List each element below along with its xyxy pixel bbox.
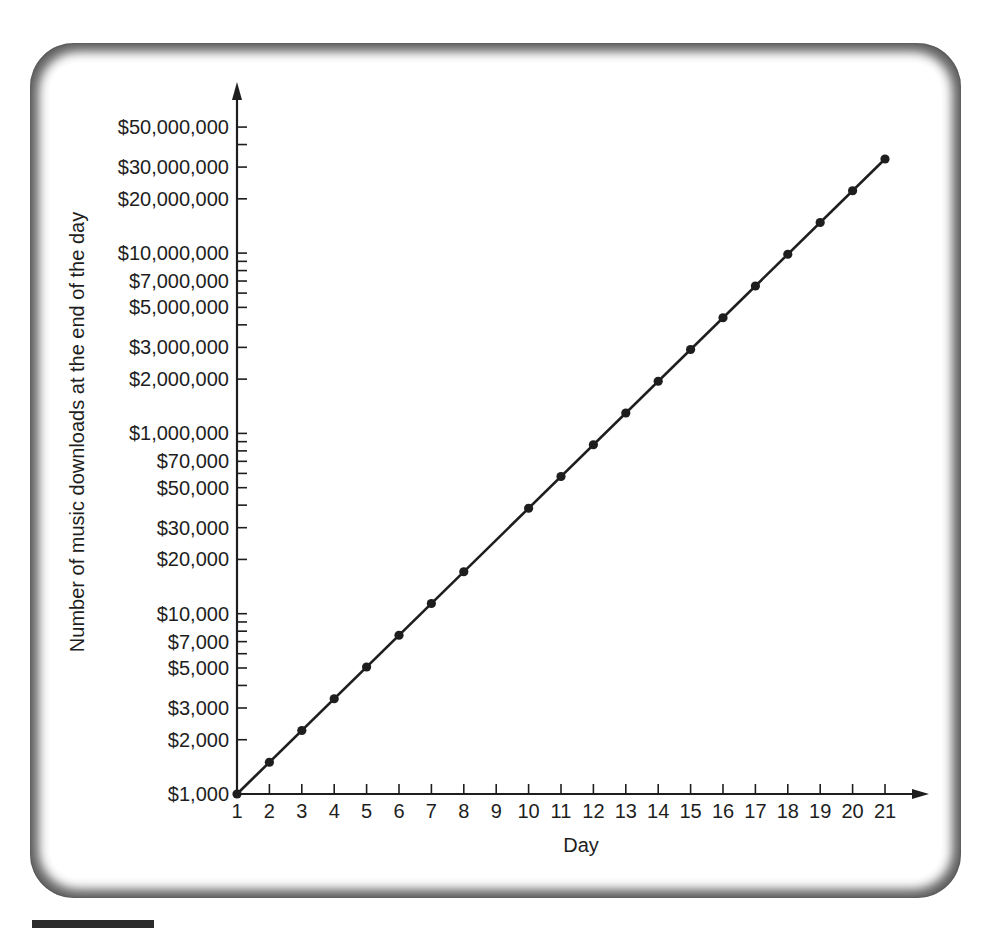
y-tick-label: $70,000: [157, 450, 229, 472]
data-point-marker: [394, 631, 403, 640]
x-tick-label: 12: [582, 800, 604, 822]
x-tick-label: 7: [426, 800, 437, 822]
y-axis-title: Number of music downloads at the end of …: [66, 212, 88, 652]
data-point-marker: [880, 154, 889, 163]
y-axis: $1,000$2,000$3,000$5,000$7,000$10,000$20…: [118, 82, 247, 805]
y-tick-label: $20,000,000: [118, 188, 229, 210]
data-point-marker: [556, 472, 565, 481]
y-tick-label: $50,000,000: [118, 116, 229, 138]
x-tick-label: 16: [712, 800, 734, 822]
x-axis-title: Day: [563, 834, 599, 856]
y-tick-label: $20,000: [157, 548, 229, 570]
x-tick-label: 3: [296, 800, 307, 822]
x-tick-label: 17: [744, 800, 766, 822]
x-tick-label: 9: [491, 800, 502, 822]
x-tick-label: 18: [777, 800, 799, 822]
y-tick-label: $50,000: [157, 477, 229, 499]
x-tick-label: 20: [841, 800, 863, 822]
x-tick-label: 13: [615, 800, 637, 822]
y-tick-label: $10,000: [157, 603, 229, 625]
x-tick-label: 5: [361, 800, 372, 822]
data-point-marker: [232, 789, 241, 798]
data-point-marker: [427, 599, 436, 608]
data-point-marker: [297, 726, 306, 735]
data-point-marker: [524, 504, 533, 513]
data-point-marker: [621, 408, 630, 417]
data-point-marker: [265, 758, 274, 767]
y-tick-label: $3,000: [168, 697, 229, 719]
x-tick-label: 19: [809, 800, 831, 822]
y-tick-label: $1,000: [168, 783, 229, 805]
x-axis: 123456789101112131415161718192021: [231, 784, 929, 822]
y-tick-label: $5,000,000: [129, 296, 229, 318]
data-point-marker: [686, 345, 695, 354]
y-tick-label: $2,000,000: [129, 368, 229, 390]
y-tick-label: $7,000,000: [129, 270, 229, 292]
data-point-marker: [848, 186, 857, 195]
data-point-marker: [362, 662, 371, 671]
y-tick-label: $10,000,000: [118, 242, 229, 264]
x-tick-label: 1: [231, 800, 242, 822]
data-point-marker: [589, 440, 598, 449]
y-tick-label: $3,000,000: [129, 336, 229, 358]
y-tick-label: $2,000: [168, 729, 229, 751]
data-point-marker: [654, 377, 663, 386]
data-point-marker: [751, 281, 760, 290]
data-point-marker: [783, 250, 792, 259]
y-tick-label: $5,000: [168, 657, 229, 679]
x-tick-label: 4: [329, 800, 340, 822]
data-series: [232, 154, 889, 798]
x-tick-label: 2: [264, 800, 275, 822]
data-point-marker: [718, 313, 727, 322]
chart-canvas: $1,000$2,000$3,000$5,000$7,000$10,000$20…: [0, 0, 996, 937]
y-tick-label: $1,000,000: [129, 422, 229, 444]
data-point-marker: [330, 694, 339, 703]
x-tick-label: 14: [647, 800, 669, 822]
x-tick-label: 21: [874, 800, 896, 822]
x-tick-label: 10: [517, 800, 539, 822]
data-point-marker: [459, 567, 468, 576]
y-tick-label: $30,000,000: [118, 156, 229, 178]
x-tick-label: 8: [458, 800, 469, 822]
x-tick-label: 11: [551, 800, 572, 822]
x-tick-label: 15: [679, 800, 701, 822]
y-tick-label: $7,000: [168, 631, 229, 653]
y-tick-label: $30,000: [157, 517, 229, 539]
data-point-marker: [816, 218, 825, 227]
x-tick-label: 6: [393, 800, 404, 822]
